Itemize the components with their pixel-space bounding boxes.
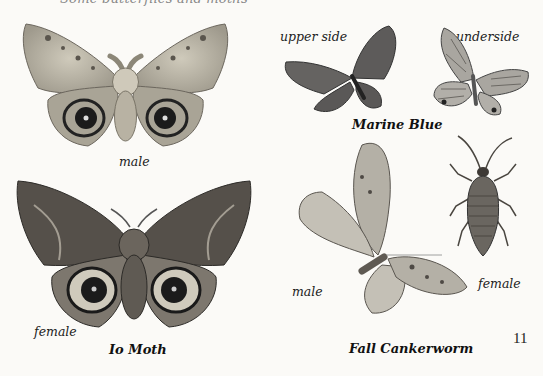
abdomen: [121, 255, 147, 319]
top-caption: Some butterflies and moths: [60, 0, 300, 6]
marine-blue-underside-illustration: [416, 24, 536, 116]
hindwing-right: [478, 92, 501, 115]
forewing-top: [352, 26, 396, 79]
forewing-left: [441, 28, 474, 82]
antenna-right: [486, 138, 512, 168]
hindwing-right: [356, 82, 381, 108]
hindwing-left: [434, 82, 472, 106]
antenna-left: [458, 136, 480, 168]
eyespot-left: [68, 268, 116, 312]
fall-cankerworm-female-illustration: [444, 136, 524, 264]
io-moth-male-illustration: [18, 18, 233, 143]
io-moth-species-name: Io Moth: [109, 342, 167, 357]
io-moth-female-illustration: [14, 165, 254, 325]
io-moth-female-label: female: [34, 324, 77, 339]
abdomen: [115, 91, 137, 141]
eyespot-right: [152, 268, 200, 312]
fall-cankerworm-female-label: female: [478, 276, 521, 291]
antenna-left: [110, 56, 122, 68]
fall-cankerworm-male-label: male: [292, 284, 323, 299]
forewing-left: [17, 181, 126, 266]
forewing-right: [142, 181, 251, 266]
fall-cankerworm-species-name: Fall Cankerworm: [349, 341, 473, 356]
forewing-left: [23, 24, 116, 93]
forewing-right: [476, 70, 528, 96]
antenna-right: [129, 56, 141, 68]
marine-blue-upper-side-illustration: [284, 24, 394, 114]
page-number: 11: [513, 330, 527, 347]
marine-blue-species-name: Marine Blue: [352, 117, 443, 132]
forewing-right: [135, 24, 228, 93]
